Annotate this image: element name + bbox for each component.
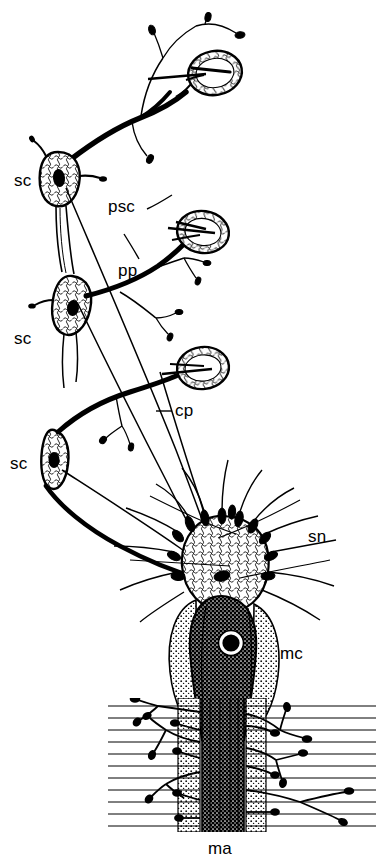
label-sn: sn	[308, 528, 326, 545]
label-ma: ma	[208, 840, 232, 857]
label-sc-2: sc	[14, 330, 31, 347]
label-sc-1: sc	[14, 172, 31, 189]
figure-canvas: sc psc pp sc cp sc sn mc ma	[0, 0, 376, 868]
label-pp: pp	[118, 262, 137, 279]
label-psc: psc	[108, 198, 135, 215]
label-cp: cp	[175, 402, 193, 419]
mantle-nucleus	[222, 634, 239, 651]
neuroanatomy-illustration	[0, 0, 376, 868]
label-sc-3: sc	[10, 455, 27, 472]
label-mc: mc	[280, 645, 303, 662]
sensory-cell-3	[41, 430, 68, 489]
